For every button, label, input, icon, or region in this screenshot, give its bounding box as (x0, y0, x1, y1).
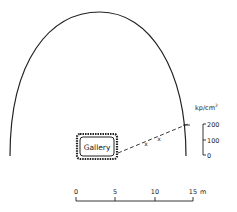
stress-axis: kp/cm2 200 100 0 (195, 103, 219, 160)
stress-tick-200: 200 (207, 121, 219, 129)
arch-diagram: Gallery x x kp/cm2 200 100 0 0 5 10 15 m (0, 0, 237, 212)
gallery-label: Gallery (84, 143, 111, 152)
scale-tick-10: 10 (151, 188, 159, 196)
scale-unit: m (200, 188, 206, 196)
scale-tick-0: 0 (74, 188, 78, 196)
stress-line (118, 124, 188, 153)
marker-2: x (157, 135, 161, 142)
stress-unit: kp/cm2 (195, 103, 218, 112)
scale-tick-15: 15 (189, 188, 197, 196)
marker-1: x (144, 140, 148, 147)
scale-tick-5: 5 (113, 188, 117, 196)
stress-tick-0: 0 (207, 152, 211, 160)
scale-bar: 0 5 10 15 m (74, 188, 206, 201)
stress-tick-100: 100 (207, 137, 219, 145)
